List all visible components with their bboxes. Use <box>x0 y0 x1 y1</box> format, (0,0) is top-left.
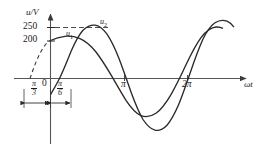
origin-label: 0 <box>42 79 47 89</box>
curve-label-u1-sub: 1 <box>70 34 73 40</box>
y-tick-label-250: 250 <box>23 22 37 32</box>
frac-denominator: 6 <box>57 88 63 97</box>
x-tick-label-2pi: 2π <box>182 80 192 90</box>
curve-label-u2-sub: 2 <box>104 22 107 28</box>
dimension-label-pi-over-6: π 6 <box>57 80 63 98</box>
frac-denominator: 3 <box>31 88 37 97</box>
waveform-figure: u/V 250 200 0 π 2π ωt u1 u2 π 3 π 6 <box>0 0 271 156</box>
dimension-label-pi-over-3: π 3 <box>31 80 37 98</box>
x-axis-label: ωt <box>244 80 253 89</box>
curve-label-u1: u1 <box>66 30 73 40</box>
waveform-plot <box>0 0 271 156</box>
x-tick-label-pi: π <box>121 80 126 90</box>
curve-u2 <box>51 20 235 130</box>
y-axis-label: u/V <box>26 8 39 17</box>
curve-u1-dashed-extension <box>30 41 51 79</box>
y-tick-label-200: 200 <box>23 35 37 45</box>
frac-numerator: π <box>57 80 63 88</box>
frac-numerator: π <box>31 80 37 88</box>
curve-label-u2: u2 <box>100 18 107 28</box>
